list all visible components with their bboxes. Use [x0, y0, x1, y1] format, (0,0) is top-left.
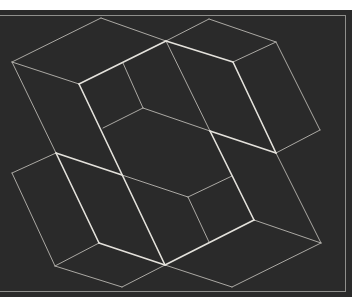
line-constellation-artwork: [0, 0, 359, 306]
